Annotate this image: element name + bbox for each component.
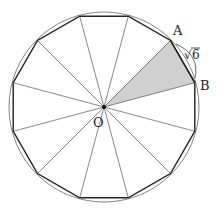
center-point (102, 105, 106, 109)
svg-text:6: 6 (192, 48, 200, 62)
label-b: B (200, 78, 210, 93)
shaded-triangle-oab (104, 41, 195, 108)
dodecagon-diagram: O A B √ 6 (0, 0, 218, 214)
svg-text:√: √ (184, 48, 192, 62)
label-o: O (93, 115, 104, 130)
side-length-label: √ 6 (184, 48, 200, 62)
label-a: A (172, 23, 183, 38)
